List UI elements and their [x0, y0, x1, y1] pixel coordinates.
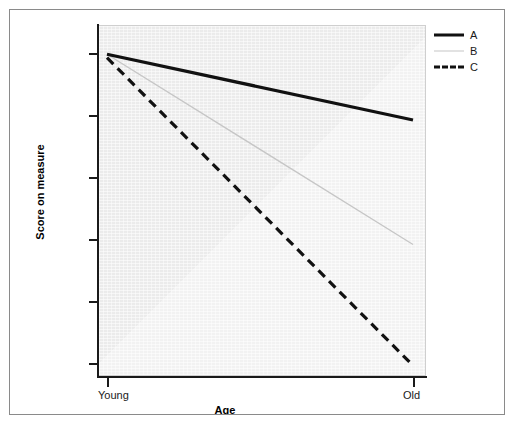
y-axis-spine — [97, 24, 99, 378]
x-axis-spine — [97, 376, 427, 378]
legend-label-a: A — [470, 30, 477, 41]
y-axis-tick — [89, 363, 98, 365]
y-axis-tick — [89, 115, 98, 117]
plot-panel — [98, 25, 426, 376]
legend-item-b[interactable]: B — [434, 43, 498, 59]
legend-item-a[interactable]: A — [434, 27, 498, 43]
y-axis-tick — [89, 53, 98, 55]
legend-item-c[interactable]: C — [434, 59, 498, 75]
y-axis-tick — [89, 177, 98, 179]
legend-swatch-solid-thin-icon — [434, 45, 464, 57]
x-tick-label-old: Old — [403, 389, 420, 401]
legend-swatch-dashed-icon — [434, 61, 464, 73]
y-axis-title: Score on measure — [34, 112, 46, 272]
legend: A B C — [434, 27, 498, 75]
y-axis-tick — [89, 301, 98, 303]
legend-swatch-solid-thick-icon — [434, 29, 464, 41]
legend-label-b: B — [470, 46, 477, 57]
x-axis-title: Age — [10, 404, 440, 415]
x-axis-tick-old — [413, 378, 415, 387]
x-tick-label-young: Young — [98, 389, 129, 401]
figure-frame: Young Old Age Score on measure A B C — [9, 9, 505, 415]
plot-background-texture — [99, 26, 425, 375]
legend-label-c: C — [470, 62, 478, 73]
x-axis-tick-young — [107, 378, 109, 387]
y-axis-tick — [89, 239, 98, 241]
